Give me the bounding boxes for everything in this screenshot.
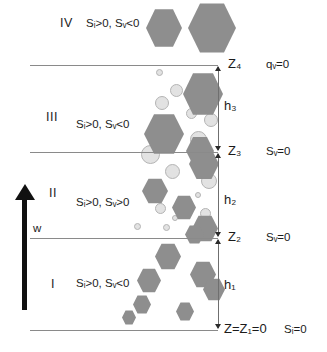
zone-condition-IV: Sᵢ>0, Sᵥ<0 [86,17,139,29]
zone-condition-I: Sᵢ>0, Sᵥ<0 [76,277,129,289]
water-droplet [204,113,218,127]
zone-numeral-IV: IV [60,16,73,30]
thickness-arrow-up-h1 [215,239,221,244]
thickness-axis-h1 [218,240,219,328]
thickness-label-h2: h₂ [224,192,236,207]
zone-numeral-III: III [46,110,58,124]
water-droplet [134,223,141,230]
boundary-condition-Sw0: Sᵥ=0 [266,145,290,157]
thickness-arrow-down-h1 [215,324,221,329]
ice-crystal-hexagon [142,178,168,204]
boundary-condition-Sw0: Sᵥ=0 [266,231,290,243]
zone-numeral-I: I [51,277,55,291]
water-droplet [170,84,183,97]
water-droplet [155,203,166,214]
thickness-axis-h2 [218,154,219,236]
flow-velocity-label: w [33,222,41,234]
thickness-axis-h3 [218,67,219,150]
water-droplet [165,164,180,179]
water-droplet [163,224,170,231]
ice-crystal-hexagon [176,302,194,321]
zone-boundary-line [30,330,218,331]
zone-numeral-II: II [49,186,57,200]
boundary-condition-Si0: Sᵢ=0 [284,323,307,335]
ice-crystal-hexagon [188,2,236,54]
thickness-arrow-down-h3 [215,146,221,151]
ice-crystal-hexagon [122,310,136,325]
ice-crystal-hexagon [137,268,161,293]
zone-condition-II: Sᵢ>0, Sᵥ>0 [76,196,129,208]
zone-boundary-line [30,65,218,66]
thickness-arrow-up-h3 [215,66,221,71]
freezing-column-diagram: Z₄qᵥ=0Z₃Sᵥ=0Z₂Sᵥ=0Z=Z₁=0Sᵢ=0IVSᵢ>0, Sᵥ<0… [0,0,327,352]
ice-crystal-hexagon [133,295,151,314]
water-droplet [155,96,169,110]
zone-boundary-line [30,238,218,239]
flow-arrow-shaft [22,200,27,310]
depth-label-ZZ10: Z=Z₁=0 [224,321,267,336]
ice-crystal-hexagon [146,8,182,48]
depth-label-Z2: Z₂ [228,229,241,244]
thickness-label-h1: h₁ [224,277,236,292]
boundary-condition-qw0: qᵥ=0 [266,58,289,70]
zone-boundary-line [30,152,218,153]
water-droplet [156,69,163,76]
thickness-arrow-up-h2 [215,153,221,158]
depth-label-Z3: Z₃ [228,143,241,158]
water-droplet [195,192,201,198]
thickness-label-h3: h₃ [224,98,237,113]
flow-arrow-head [15,184,35,200]
ice-crystal-hexagon [155,243,181,270]
zone-condition-III: Sᵢ>0, Sᵥ<0 [76,118,129,130]
depth-label-Z4: Z₄ [228,56,241,71]
thickness-arrow-down-h2 [215,232,221,237]
